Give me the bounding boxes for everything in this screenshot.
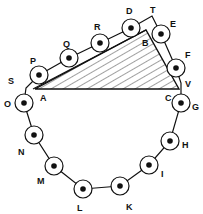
pulley-node-m: [45, 157, 63, 175]
pulley-node-d: [122, 19, 140, 37]
pulley-node-o: [15, 94, 33, 112]
point-label-v: V: [185, 79, 191, 89]
node-label-f: F: [185, 50, 191, 60]
pulley-center-icon: [31, 132, 37, 138]
pulley-node-l: [74, 180, 92, 198]
pulley-center-icon: [173, 65, 179, 71]
pulley-center-icon: [178, 100, 184, 106]
node-label-q: Q: [63, 39, 70, 49]
pulley-node-p: [30, 66, 48, 84]
node-label-i: I: [161, 169, 164, 179]
node-label-d: D: [126, 6, 133, 16]
pulley-center-icon: [21, 100, 27, 106]
pulley-node-i: [140, 156, 158, 174]
node-label-r: R: [94, 22, 101, 32]
point-label-t: T: [150, 5, 156, 15]
pulley-center-icon: [51, 163, 57, 169]
pulley-center-icon: [80, 186, 86, 192]
pulley-node-r: [91, 34, 109, 52]
pulley-node-k: [111, 177, 129, 195]
point-label-b: B: [142, 38, 149, 48]
point-label-c: C: [165, 93, 172, 103]
belt-pulley-diagram: PQRDEFGHIKLMNOSTVABC: [0, 0, 203, 214]
node-label-k: K: [126, 202, 133, 212]
pulley-node-g: [172, 94, 190, 112]
pulley-node-e: [152, 25, 170, 43]
node-label-e: E: [170, 19, 176, 29]
node-label-g: G: [192, 102, 199, 112]
pulley-center-icon: [158, 31, 164, 37]
pulley-center-icon: [36, 72, 42, 78]
point-label-a: A: [40, 93, 47, 103]
pulley-node-q: [60, 49, 78, 67]
point-label-s: S: [8, 76, 14, 86]
pulley-node-f: [167, 59, 185, 77]
pulley-nodes: [15, 19, 190, 198]
node-label-n: N: [18, 147, 25, 157]
pulley-center-icon: [97, 40, 103, 46]
pulley-node-h: [161, 132, 179, 150]
node-label-p: P: [30, 56, 36, 66]
pulley-center-icon: [167, 138, 173, 144]
pulley-center-icon: [146, 162, 152, 168]
node-label-l: L: [77, 203, 83, 213]
node-label-m: M: [37, 176, 45, 186]
pulley-center-icon: [128, 25, 134, 31]
node-label-o: O: [4, 99, 11, 109]
pulley-center-icon: [117, 183, 123, 189]
pulley-node-n: [25, 126, 43, 144]
diagram-canvas: PQRDEFGHIKLMNOSTVABC: [0, 0, 203, 214]
pulley-center-icon: [66, 55, 72, 61]
node-label-h: H: [182, 140, 189, 150]
